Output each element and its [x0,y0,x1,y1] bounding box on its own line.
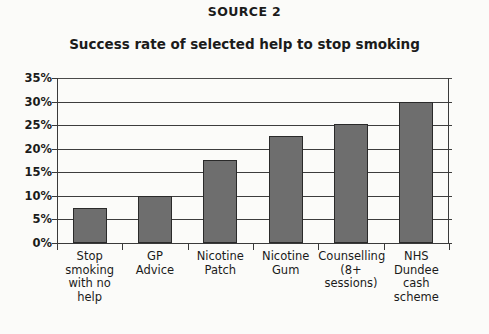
y-axis-tick-labels: 0%5%10%15%20%25%30%35% [8,78,52,243]
x-axis-divider-tick [57,243,58,250]
bar [73,208,107,243]
x-axis-divider-tick [253,243,254,250]
bar [334,124,368,243]
y-axis-tick-label: 20% [12,142,52,156]
x-axis-divider-tick [384,243,385,250]
x-axis-divider-tick [188,243,189,250]
y-axis-tick-label: 35% [12,71,52,85]
bar [138,196,172,243]
y-axis-tick-label: 10% [12,189,52,203]
x-axis-category-labels: Stop smoking with no helpGP AdviceNicoti… [57,250,449,330]
y-axis-tick-label: 0% [12,236,52,250]
bars-layer [57,78,449,243]
x-axis-category-label: Stop smoking with no help [57,250,122,304]
y-axis-tick-label: 15% [12,165,52,179]
y-axis-tick-label: 25% [12,118,52,132]
bar [399,102,433,243]
x-axis-category-label: Nicotine Patch [188,250,253,277]
x-axis-divider-tick [122,243,123,250]
bar [269,136,303,243]
x-axis-line [57,243,452,244]
x-axis-divider-tick [318,243,319,250]
x-axis-category-label: Counselling (8+ sessions) [318,250,383,291]
y-axis-tick-label: 5% [12,212,52,226]
bar [203,160,237,243]
x-axis-category-label: GP Advice [122,250,187,277]
x-axis-category-label: NHS Dundee cash scheme [384,250,449,304]
bar-chart: 0%5%10%15%20%25%30%35% Stop smoking with… [0,0,489,334]
x-axis-category-label: Nicotine Gum [253,250,318,277]
y-axis-tick-label: 30% [12,95,52,109]
x-axis-divider-tick [449,243,450,250]
